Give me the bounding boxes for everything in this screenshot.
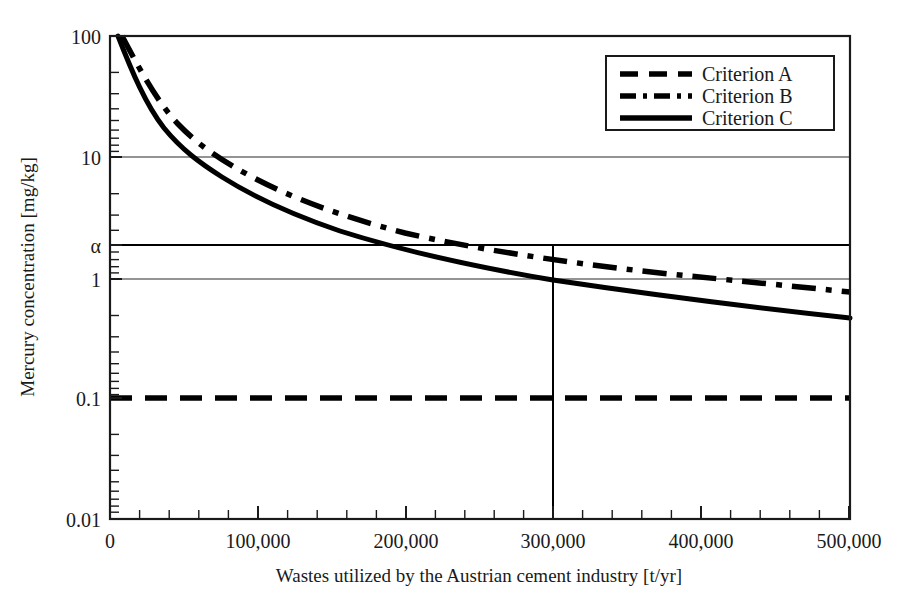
legend-label-criterion-a: Criterion A (702, 63, 793, 85)
ytick-label-1: 1 (91, 269, 101, 291)
y-axis-title: Mercury concentration [mg/kg] (17, 157, 38, 397)
legend: Criterion A Criterion B Criterion C (606, 56, 834, 130)
xtick-label-300000: 300,000 (521, 530, 586, 552)
ytick-label-0.01: 0.01 (66, 509, 101, 531)
xtick-label-100000: 100,000 (226, 530, 291, 552)
ytick-label-alpha: α (91, 235, 102, 257)
xtick-label-0: 0 (105, 530, 115, 552)
legend-label-criterion-b: Criterion B (702, 85, 793, 107)
xtick-label-400000: 400,000 (669, 530, 734, 552)
ytick-label-10: 10 (81, 147, 101, 169)
xtick-label-500000: 500,000 (817, 530, 882, 552)
mercury-concentration-chart: 100 10 α 1 0.1 0.01 0 100,000 200,000 30… (0, 0, 918, 614)
xtick-label-200000: 200,000 (374, 530, 439, 552)
x-axis-title: Wastes utilized by the Austrian cement i… (276, 565, 682, 586)
chart-figure: 100 10 α 1 0.1 0.01 0 100,000 200,000 30… (0, 0, 918, 614)
ytick-label-0.1: 0.1 (76, 388, 101, 410)
ytick-label-100: 100 (71, 26, 101, 48)
legend-label-criterion-c: Criterion C (702, 107, 793, 129)
